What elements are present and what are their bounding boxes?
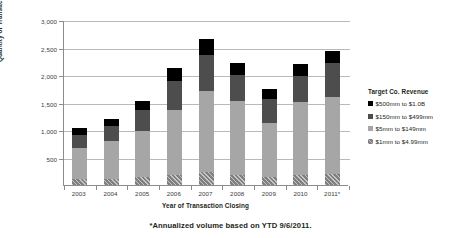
legend-item-label: $150mm to $499mm [376,113,434,120]
x-axis-tick-label: 2008 [221,190,253,197]
bar-segment [72,128,87,135]
plot-area [63,21,348,186]
legend-item-label: $1mm to $4.99mm [376,138,428,145]
bar-segment [135,131,150,177]
legend-item[interactable]: $150mm to $499mm [368,113,460,120]
bar-slot [190,21,222,185]
legend-swatch-icon [368,114,373,119]
bar-segment [104,126,119,140]
bar-segment [325,174,340,185]
x-axis-tick-mark [349,186,350,190]
y-axis-tick-label: 1,500 [41,100,57,107]
legend-item-label: $5mm to $149mm [376,125,427,132]
stacked-bar[interactable] [325,51,340,185]
bar-segment [135,101,150,110]
y-axis-title: Quantity of Transactions [0,0,3,62]
bar-segment [104,141,119,179]
legend-item-label: $500mm to $1.0B [376,100,426,107]
stacked-bar[interactable] [135,101,150,185]
bar-segment [293,102,308,175]
bar-segment [293,64,308,76]
bar-segment [199,39,214,56]
y-axis-tick-label: 500 [46,155,57,162]
bar-segment [230,75,245,101]
bar-segment [72,179,87,185]
bar-slot [317,21,349,185]
bar-slot [127,21,159,185]
bar-slot [253,21,285,185]
x-axis-tick-label: 2005 [126,190,158,197]
bar-slot [222,21,254,185]
bar-segment [167,81,182,110]
stacked-bar[interactable] [262,89,277,185]
bar-group [64,21,348,185]
bar-segment [167,110,182,175]
stacked-bar[interactable] [293,64,308,185]
x-axis-title: Year of Transaction Closing [63,202,348,209]
bar-segment [262,123,277,177]
bar-segment [230,175,245,185]
y-axis-tick-label: 2,500 [41,45,57,52]
bar-segment [230,101,245,175]
x-axis-tick-label: 2003 [63,190,95,197]
bar-slot [64,21,96,185]
x-axis-tick-label: 2009 [253,190,285,197]
bar-segment [135,177,150,185]
bar-slot [285,21,317,185]
legend-item[interactable]: $500mm to $1.0B [368,100,460,107]
legend-swatch-icon [368,126,373,131]
stacked-bar[interactable] [230,63,245,185]
stacked-bar-chart: Quantity of Transactions 5001,0001,5002,… [0,0,461,238]
bar-segment [135,110,150,131]
bar-segment [72,148,87,179]
bar-segment [325,63,340,97]
bar-segment [167,175,182,185]
legend-title: Target Co. Revenue [368,88,460,95]
bar-segment [325,51,340,64]
bar-segment [104,179,119,185]
bar-segment [199,172,214,185]
stacked-bar[interactable] [72,128,87,185]
legend-item[interactable]: $1mm to $4.99mm [368,138,460,145]
legend: Target Co. Revenue $500mm to $1.0B$150mm… [368,88,460,150]
legend-swatch-icon [368,101,373,106]
bar-segment [167,68,182,81]
bar-segment [199,91,214,172]
bar-segment [262,89,277,99]
bar-segment [262,177,277,185]
x-axis-tick-label: 2007 [190,190,222,197]
chart-footnote: *Annualized volume based on YTD 9/6/2011… [0,221,461,230]
x-axis-tick-label: 2006 [158,190,190,197]
x-axis-tick-label: 2010 [285,190,317,197]
bar-segment [104,119,119,127]
y-axis-tick-label: 3,000 [41,18,57,25]
x-axis-tick-label: 2011* [316,190,348,197]
bar-segment [293,76,308,102]
x-axis-labels: 200320042005200620072008200920102011* [63,190,348,197]
bar-segment [325,97,340,174]
stacked-bar[interactable] [104,119,119,185]
bar-segment [72,135,87,148]
legend-item[interactable]: $5mm to $149mm [368,125,460,132]
bar-slot [159,21,191,185]
bar-segment [293,175,308,185]
stacked-bar[interactable] [199,39,214,185]
bar-segment [262,99,277,122]
y-axis-tick-label: 1,000 [41,128,57,135]
x-axis-tick-label: 2004 [95,190,127,197]
stacked-bar[interactable] [167,68,182,185]
legend-swatch-icon [368,139,373,144]
bar-segment [199,55,214,90]
y-axis-tick-label: 2,000 [41,73,57,80]
bar-slot [96,21,128,185]
bar-segment [230,63,245,75]
